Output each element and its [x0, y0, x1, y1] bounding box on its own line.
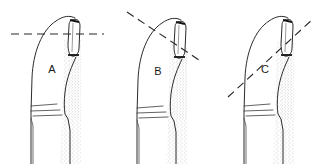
panel-label-b: B — [154, 65, 161, 77]
finger-angle-figure: A B — [0, 0, 316, 164]
fingernail-a — [68, 19, 80, 56]
fingernail-c — [281, 19, 293, 56]
figure-canvas: A B — [0, 0, 316, 164]
panel-label-c: C — [261, 63, 269, 75]
fingernail-b — [174, 21, 186, 58]
figure-background — [0, 0, 316, 164]
panel-label-a: A — [48, 63, 56, 75]
